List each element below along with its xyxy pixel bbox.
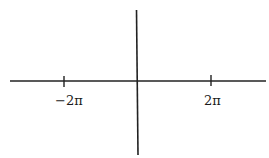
axes-diagram: −2π 2π — [0, 0, 269, 158]
y-axis — [137, 10, 139, 155]
axes-graphic — [0, 0, 269, 158]
tick-label-neg-2pi: −2π — [55, 94, 83, 107]
tick-label-pos-2pi: 2π — [204, 94, 221, 107]
